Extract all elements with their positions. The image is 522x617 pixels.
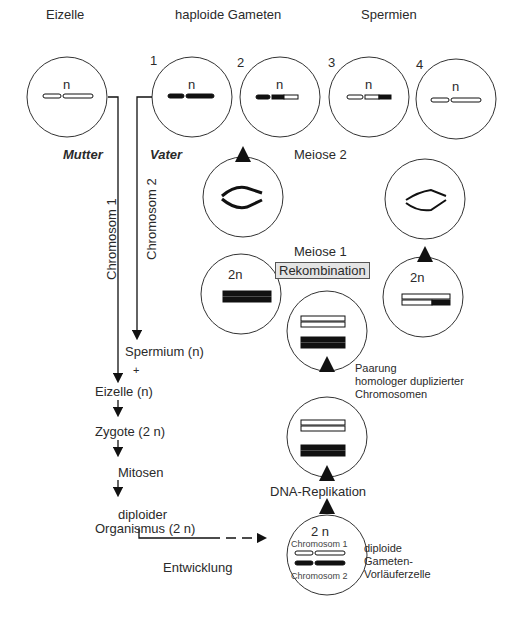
ploidy-label: n (188, 78, 195, 91)
flow-mitosen: Mitosen (118, 466, 164, 479)
gamete-number: 1 (150, 54, 157, 67)
father-label: Vater (150, 148, 182, 161)
flow-organismus: Organismus (2 n) (95, 522, 195, 535)
meiosis2-right (385, 159, 465, 239)
ploidy-label: n (365, 78, 372, 91)
precursor-chrom1: Chromosom 1 (291, 540, 348, 549)
spermien-header: Spermien (361, 8, 417, 21)
gamete-number: 2 (237, 56, 244, 69)
rekombination-label: Rekombination (275, 262, 370, 279)
gameten-header: haploide Gameten (175, 8, 281, 21)
flow-plus: + (133, 364, 139, 377)
lineage-chrom2: Chromosom 2 (145, 178, 158, 260)
dna-replikation-label: DNA-Replikation (270, 485, 366, 498)
ploidy-label: n (63, 78, 70, 91)
paarung-label: Paarunghomologer duplizierterChromosomen (355, 362, 464, 401)
meiose1-label: Meiose 1 (294, 245, 347, 258)
pairing-cell (287, 291, 367, 371)
flow-zygote: Zygote (2 n) (95, 425, 165, 438)
meiosis2-left (203, 157, 283, 237)
flow-entwicklung: Entwicklung (163, 561, 232, 574)
lineage-chrom1: Chromosom 1 (105, 198, 118, 280)
ploidy-label: 2n (410, 271, 424, 284)
ploidy-label: n (452, 80, 459, 93)
meiosis-diagram (0, 0, 522, 617)
flow-spermium: Spermium (n) (125, 345, 204, 358)
eizelle-header: Eizelle (46, 8, 84, 21)
ploidy-label: 2 n (311, 525, 329, 538)
precursor-chrom2: Chromosom 2 (291, 572, 348, 581)
flow-eizelle: Eizelle (n) (95, 385, 153, 398)
flow-diploider: diploider (118, 508, 167, 521)
ploidy-label: 2n (228, 268, 242, 281)
ploidy-label: n (276, 78, 283, 91)
gamete-number: 4 (416, 58, 423, 71)
mother-label: Mutter (63, 148, 103, 161)
gamete-number: 3 (328, 56, 335, 69)
diploide-label: diploideGameten-Vorläuferzelle (364, 542, 431, 581)
meiose2-label: Meiose 2 (294, 148, 347, 161)
replicated-cell (287, 397, 367, 477)
